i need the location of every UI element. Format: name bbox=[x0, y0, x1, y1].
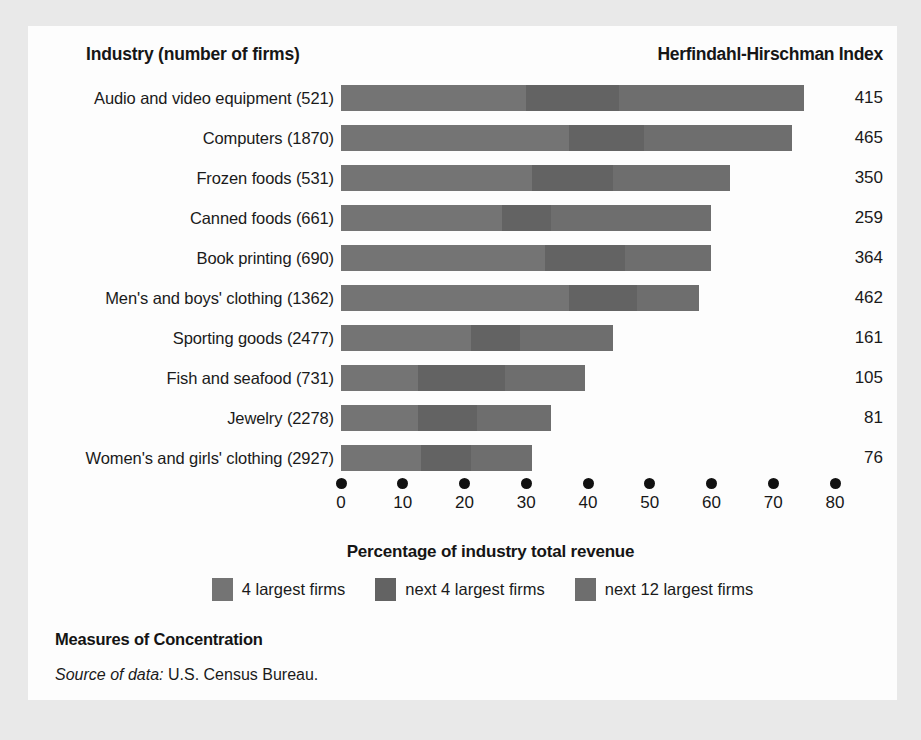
legend-item: 4 largest firms bbox=[212, 578, 346, 601]
bar-segment-2 bbox=[502, 205, 551, 231]
tick-label: 80 bbox=[823, 493, 847, 513]
tick-dot-icon bbox=[459, 478, 470, 489]
bar-segment-1 bbox=[341, 125, 569, 151]
x-axis-tick: 0 bbox=[329, 478, 353, 513]
stacked-bar bbox=[341, 125, 792, 151]
row-label: Book printing (690) bbox=[28, 238, 334, 278]
tick-dot-icon bbox=[830, 478, 841, 489]
source-value: U.S. Census Bureau. bbox=[168, 666, 318, 683]
row-label: Computers (1870) bbox=[28, 118, 334, 158]
bar-segment-1 bbox=[341, 165, 532, 191]
row-label: Frozen foods (531) bbox=[28, 158, 334, 198]
figure-title: Measures of Concentration bbox=[55, 630, 263, 649]
hhi-value: 465 bbox=[823, 118, 883, 158]
hhi-value: 350 bbox=[823, 158, 883, 198]
bar-segment-3 bbox=[551, 205, 712, 231]
source-note: Source of data: U.S. Census Bureau. bbox=[55, 666, 318, 684]
figure-panel: Industry (number of firms) Herfindahl-Hi… bbox=[28, 26, 897, 700]
stacked-bar bbox=[341, 285, 699, 311]
bar-segment-2 bbox=[471, 325, 520, 351]
x-axis-tick: 80 bbox=[823, 478, 847, 513]
industry-column-header: Industry (number of firms) bbox=[86, 44, 300, 65]
bar-segment-3 bbox=[613, 165, 730, 191]
tick-label: 0 bbox=[329, 493, 353, 513]
row-label: Fish and seafood (731) bbox=[28, 358, 334, 398]
legend-swatch-2 bbox=[375, 578, 396, 601]
bar-segment-2 bbox=[532, 165, 612, 191]
chart-row: Men's and boys' clothing (1362)462 bbox=[28, 278, 897, 318]
x-axis-title: Percentage of industry total revenue bbox=[28, 542, 897, 562]
bar-segment-3 bbox=[477, 405, 551, 431]
bar-segment-3 bbox=[505, 365, 585, 391]
x-axis-tick: 40 bbox=[576, 478, 600, 513]
bar-segment-2 bbox=[545, 245, 625, 271]
stacked-bar bbox=[341, 165, 730, 191]
chart-row: Women's and girls' clothing (2927)76 bbox=[28, 438, 897, 478]
x-axis-tick: 50 bbox=[638, 478, 662, 513]
row-label: Men's and boys' clothing (1362) bbox=[28, 278, 334, 318]
row-label: Jewelry (2278) bbox=[28, 398, 334, 438]
chart-row: Sporting goods (2477)161 bbox=[28, 318, 897, 358]
stacked-bar bbox=[341, 365, 585, 391]
chart-row: Book printing (690)364 bbox=[28, 238, 897, 278]
tick-dot-icon bbox=[336, 478, 347, 489]
chart-row: Frozen foods (531)350 bbox=[28, 158, 897, 198]
bar-segment-2 bbox=[418, 365, 504, 391]
bar-segment-2 bbox=[526, 85, 619, 111]
hhi-value: 105 bbox=[823, 358, 883, 398]
bar-segment-3 bbox=[619, 85, 804, 111]
tick-label: 30 bbox=[514, 493, 538, 513]
tick-label: 20 bbox=[453, 493, 477, 513]
bar-segment-3 bbox=[637, 285, 699, 311]
chart-plot-area: Audio and video equipment (521)415Comput… bbox=[28, 78, 897, 478]
hhi-value: 81 bbox=[823, 398, 883, 438]
bar-segment-1 bbox=[341, 205, 502, 231]
legend-label: next 4 largest firms bbox=[405, 580, 544, 599]
chart-row: Audio and video equipment (521)415 bbox=[28, 78, 897, 118]
tick-dot-icon bbox=[521, 478, 532, 489]
x-axis-tick: 60 bbox=[700, 478, 724, 513]
bar-segment-1 bbox=[341, 405, 418, 431]
hhi-value: 76 bbox=[823, 438, 883, 478]
bar-segment-3 bbox=[471, 445, 533, 471]
x-axis-tick: 30 bbox=[514, 478, 538, 513]
tick-dot-icon bbox=[768, 478, 779, 489]
stacked-bar bbox=[341, 85, 804, 111]
hhi-value: 259 bbox=[823, 198, 883, 238]
bar-segment-1 bbox=[341, 325, 471, 351]
row-label: Canned foods (661) bbox=[28, 198, 334, 238]
legend-item: next 4 largest firms bbox=[375, 578, 544, 601]
tick-dot-icon bbox=[644, 478, 655, 489]
tick-dot-icon bbox=[706, 478, 717, 489]
hhi-value: 462 bbox=[823, 278, 883, 318]
bar-segment-3 bbox=[644, 125, 792, 151]
x-axis: 01020304050607080 bbox=[28, 478, 897, 540]
row-label: Women's and girls' clothing (2927) bbox=[28, 438, 334, 478]
source-label: Source of data: bbox=[55, 666, 164, 683]
tick-label: 60 bbox=[700, 493, 724, 513]
column-headers: Industry (number of firms) Herfindahl-Hi… bbox=[28, 44, 897, 74]
bar-segment-3 bbox=[625, 245, 711, 271]
bar-segment-1 bbox=[341, 245, 545, 271]
bar-segment-1 bbox=[341, 445, 421, 471]
legend-swatch-3 bbox=[575, 578, 596, 601]
stacked-bar bbox=[341, 245, 712, 271]
hhi-value: 161 bbox=[823, 318, 883, 358]
hhi-value: 415 bbox=[823, 78, 883, 118]
legend-item: next 12 largest firms bbox=[575, 578, 754, 601]
chart-legend: 4 largest firmsnext 4 largest firmsnext … bbox=[28, 578, 897, 601]
bar-segment-2 bbox=[569, 125, 643, 151]
chart-row: Canned foods (661)259 bbox=[28, 198, 897, 238]
bar-segment-2 bbox=[569, 285, 637, 311]
legend-swatch-1 bbox=[212, 578, 233, 601]
row-label: Sporting goods (2477) bbox=[28, 318, 334, 358]
bar-segment-3 bbox=[520, 325, 613, 351]
stacked-bar bbox=[341, 325, 613, 351]
bar-segment-1 bbox=[341, 365, 418, 391]
bar-segment-2 bbox=[421, 445, 470, 471]
x-axis-tick: 20 bbox=[453, 478, 477, 513]
chart-row: Computers (1870)465 bbox=[28, 118, 897, 158]
chart-row: Fish and seafood (731)105 bbox=[28, 358, 897, 398]
tick-label: 10 bbox=[391, 493, 415, 513]
stacked-bar bbox=[341, 405, 551, 431]
